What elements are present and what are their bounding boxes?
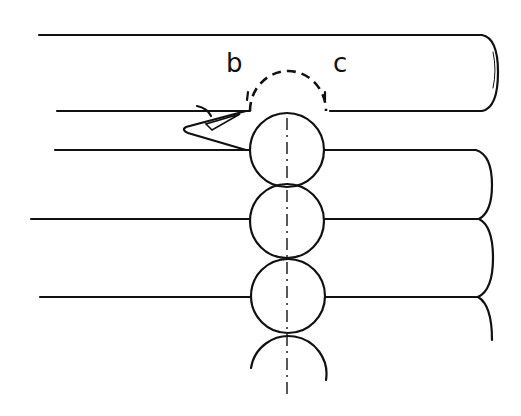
- diagram-canvas: b c: [0, 0, 521, 416]
- label-b: b: [226, 48, 243, 78]
- circle-4-partial: [251, 336, 326, 380]
- tick-b: [247, 92, 248, 100]
- top-rod: [39, 35, 498, 111]
- left-lines: [31, 150, 250, 297]
- dashed-arc: [250, 71, 326, 111]
- label-c: c: [333, 48, 347, 78]
- right-layers: [324, 150, 493, 340]
- circle-column: [250, 113, 326, 380]
- circle-3: [251, 259, 325, 333]
- wedge-tool: [184, 106, 246, 150]
